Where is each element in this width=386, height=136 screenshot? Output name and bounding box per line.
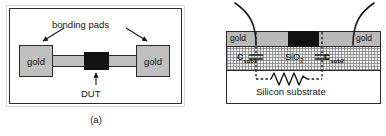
arrow-left-icon — [43, 28, 64, 41]
substrate-resistor-icon — [271, 73, 307, 85]
caption-a: (a) — [76, 114, 116, 125]
panel-b-circuit-overlay — [193, 0, 386, 136]
bond-wire-right-icon — [353, 3, 374, 45]
bond-wire-left-icon — [235, 3, 256, 45]
panel-a: gold gold bonding pads DUT (a) — [0, 0, 193, 136]
panel-b: gold gold SiO2 Silicon substrate Csub1 C… — [193, 0, 386, 136]
arrow-right-icon — [126, 28, 147, 41]
figure-container: gold gold bonding pads DUT (a) — [0, 0, 386, 136]
